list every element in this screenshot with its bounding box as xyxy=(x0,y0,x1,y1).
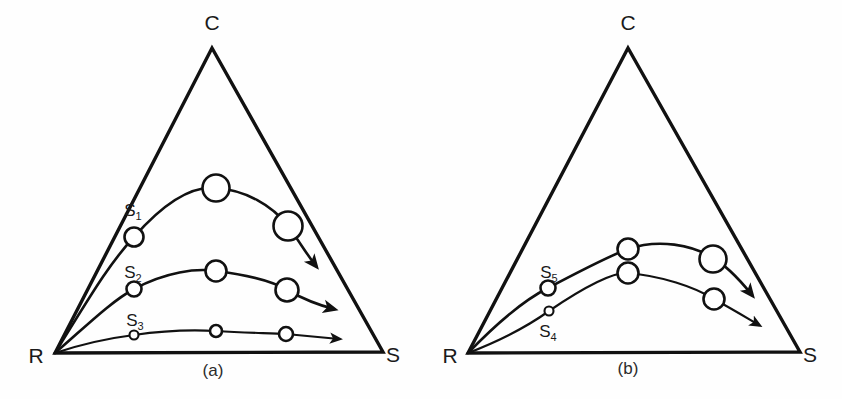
node-s2-2 xyxy=(206,261,227,282)
node-s2-3 xyxy=(276,279,299,302)
node-s1-1 xyxy=(125,228,144,247)
node-s1-2 xyxy=(203,175,230,202)
vertex-label-r-a: R xyxy=(28,344,43,367)
figure-canvas: CRSS1S2S3(a)CRSS5S4(b) xyxy=(0,0,842,399)
vertex-label-c-a: C xyxy=(204,11,219,34)
node-s4-1 xyxy=(545,307,554,316)
vertex-label-r-b: R xyxy=(442,344,457,367)
node-s1-3 xyxy=(274,212,303,241)
node-s4-2 xyxy=(618,263,639,284)
node-s3-2 xyxy=(210,325,222,337)
panel-b: CRSS5S4(b) xyxy=(442,11,817,378)
node-s5-3 xyxy=(700,246,727,273)
strategy-label-s3: S3 xyxy=(126,311,143,332)
panels-root: CRSS1S2S3(a)CRSS5S4(b) xyxy=(28,11,817,380)
strategy-subscript-s4: 4 xyxy=(551,331,557,343)
strategy-label-s5: S5 xyxy=(540,263,557,284)
vertex-label-c-b: C xyxy=(620,11,635,34)
strategy-subscript-s3: 3 xyxy=(138,320,144,332)
panel-caption-a: (a) xyxy=(203,361,224,380)
strategy-label-s1: S1 xyxy=(124,201,141,222)
node-s5-2 xyxy=(618,239,639,260)
node-s3-3 xyxy=(279,327,293,341)
vertex-label-s-b: S xyxy=(803,343,817,366)
strategy-subscript-s1: 1 xyxy=(136,210,142,222)
csr-figure: CRSS1S2S3(a)CRSS5S4(b) xyxy=(0,0,842,399)
node-s4-3 xyxy=(704,289,725,310)
strategy-subscript-s5: 5 xyxy=(552,272,558,284)
strategy-label-s2: S2 xyxy=(124,263,141,284)
panel-a: CRSS1S2S3(a) xyxy=(28,11,400,380)
vertex-label-s-a: S xyxy=(386,343,400,366)
panel-caption-b: (b) xyxy=(618,359,639,378)
trajectory-s3-a xyxy=(55,330,339,353)
strategy-label-s4: S4 xyxy=(539,322,556,343)
strategy-subscript-s2: 2 xyxy=(136,272,142,284)
